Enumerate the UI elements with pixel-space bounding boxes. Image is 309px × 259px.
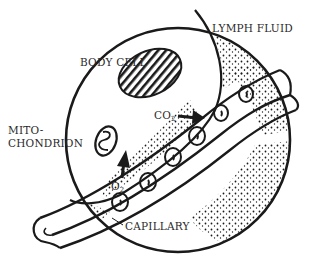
o2-subscript: 2 [120, 186, 125, 194]
body-cell-label: BODY CELL [80, 56, 147, 68]
o2-label: O2 [111, 180, 124, 196]
lymph-fluid-label: LYMPH FLUID [212, 22, 293, 34]
capillary-label: CAPILLARY [125, 220, 190, 232]
nucleus [111, 39, 189, 107]
co2-label: CO2 [154, 109, 176, 125]
co2-text: CO [154, 109, 171, 121]
mitochondrion-icon [91, 123, 120, 158]
mitochondrion-label-line1: MITO- [8, 124, 43, 136]
o2-text: O [111, 180, 120, 192]
mitochondrion-label-line2: CHONDRION [8, 137, 83, 149]
co2-subscript: 2 [171, 115, 176, 123]
diagram-canvas: LYMPH FLUID BODY CELL MITO- CHONDRION CO… [0, 0, 309, 259]
